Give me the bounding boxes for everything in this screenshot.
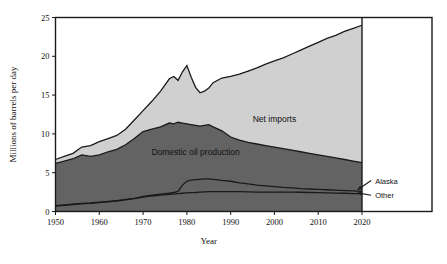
x-axis-title: Year bbox=[200, 236, 217, 246]
x-tick-label: 1960 bbox=[91, 217, 108, 227]
chart-container: 0510152025 19501960197019801990200020102… bbox=[0, 0, 447, 264]
y-tick-label: 25 bbox=[41, 13, 50, 23]
annotation-label: Domestic oil production bbox=[151, 147, 240, 157]
x-tick-label: 1970 bbox=[135, 217, 152, 227]
x-tick-label: 2010 bbox=[310, 217, 327, 227]
annotation-label: Net imports bbox=[253, 114, 296, 124]
y-tick-label: 20 bbox=[41, 51, 50, 61]
x-tick-label: 2020 bbox=[354, 217, 371, 227]
x-tick-label: 2000 bbox=[266, 217, 283, 227]
x-tick-label: 1980 bbox=[178, 217, 195, 227]
x-tick-label: 1990 bbox=[222, 217, 239, 227]
x-tick-label: 1950 bbox=[47, 217, 64, 227]
annotation-label: Alaska bbox=[375, 177, 398, 186]
y-tick-label: 10 bbox=[41, 129, 50, 139]
y-tick-label: 0 bbox=[45, 207, 49, 217]
y-axis-title: Millions of barrels per day bbox=[8, 66, 18, 162]
stacked-area-chart: 0510152025 19501960197019801990200020102… bbox=[0, 0, 447, 264]
y-tick-label: 15 bbox=[41, 90, 50, 100]
annotation-label: Other bbox=[375, 191, 394, 200]
y-tick-label: 5 bbox=[45, 168, 49, 178]
